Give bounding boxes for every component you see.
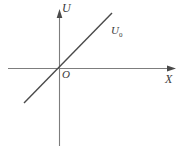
line-label-subscript: 0 bbox=[119, 31, 123, 39]
x-axis-arrowhead bbox=[167, 66, 176, 72]
x-axis-label: X bbox=[165, 73, 172, 85]
origin-label: O bbox=[62, 69, 70, 80]
y-axis-label: U bbox=[62, 2, 71, 14]
line-label-u0: U0 bbox=[111, 25, 122, 39]
line-label-base: U bbox=[111, 24, 119, 36]
graph-canvas bbox=[0, 0, 184, 151]
coordinate-graph-figure: U X O U0 bbox=[0, 0, 184, 151]
data-line-u0 bbox=[24, 13, 112, 103]
